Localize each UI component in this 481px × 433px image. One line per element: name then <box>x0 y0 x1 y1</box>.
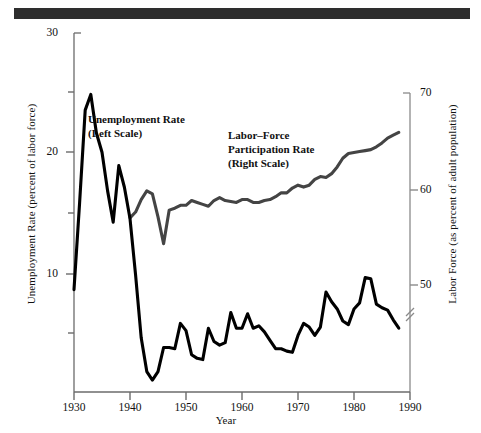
participation-label-line2: Participation Rate <box>228 142 314 156</box>
right-axis-ticks <box>410 190 418 285</box>
unemployment-label-line2: (Left Scale) <box>88 126 185 140</box>
x-tick-1970: 1970 <box>275 401 321 413</box>
left-tick-10: 10 <box>24 267 58 279</box>
right-axis-group <box>403 93 418 392</box>
unemployment-series-label: Unemployment Rate (Left Scale) <box>88 112 185 140</box>
x-tick-1990: 1990 <box>387 401 433 413</box>
left-tick-20: 20 <box>24 145 58 157</box>
unemployment-label-line1: Unemployment Rate <box>88 113 185 125</box>
x-tick-1960: 1960 <box>219 401 265 413</box>
x-tick-1950: 1950 <box>163 401 209 413</box>
x-tick-1980: 1980 <box>331 401 377 413</box>
right-tick-70: 70 <box>420 86 454 98</box>
participation-series-label: Labor–Force Participation Rate (Right Sc… <box>228 128 314 170</box>
x-axis-group <box>74 392 410 400</box>
unemployment-labor-force-chart: Unemployment Rate (percent of labor forc… <box>0 0 481 433</box>
x-tick-1940: 1940 <box>107 401 153 413</box>
x-axis-title: Year <box>186 414 266 426</box>
left-tick-30: 30 <box>24 26 58 38</box>
x-axis-ticks <box>74 392 410 400</box>
participation-label-line1: Labor–Force <box>228 129 290 141</box>
right-tick-60: 60 <box>420 183 454 195</box>
x-tick-1930: 1930 <box>51 401 97 413</box>
plot-canvas <box>0 0 481 433</box>
participation-label-line3: (Right Scale) <box>228 156 314 170</box>
right-tick-50: 50 <box>420 278 454 290</box>
left-axis-ticks <box>66 92 74 333</box>
left-axis-title: Unemployment Rate (percent of labor forc… <box>25 89 37 319</box>
